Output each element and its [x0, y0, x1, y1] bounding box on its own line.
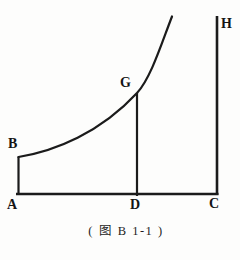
- figure-b1-1: A B C D G H ( 图 B 1-1 ): [0, 0, 240, 260]
- point-label-a: A: [7, 198, 17, 212]
- exponential-curve: [19, 17, 173, 158]
- point-label-g: G: [120, 76, 131, 90]
- point-label-c: C: [209, 197, 219, 211]
- point-label-b: B: [8, 137, 17, 151]
- point-label-h: H: [221, 17, 232, 31]
- point-label-d: D: [130, 198, 140, 212]
- figure-caption: ( 图 B 1-1 ): [0, 220, 240, 239]
